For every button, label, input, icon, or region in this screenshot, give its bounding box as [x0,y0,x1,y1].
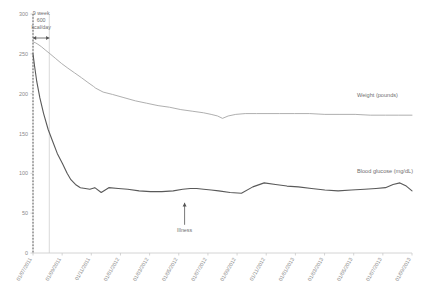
y-axis-tick-label: 200 [19,91,28,97]
x-axis-tick-label: 01/07/2013 [365,256,383,282]
x-axis-tick-label: 01/05/2013 [335,256,353,282]
line-chart: 05010015020025030001/07/201101/09/201101… [0,0,430,299]
x-axis-tick-label: 01/03/2012 [131,256,149,282]
y-axis-tick-label: 300 [19,11,28,17]
diet-annotation-line-0: 9 week [33,10,50,16]
x-axis-tick-label: 01/01/2013 [277,256,295,282]
x-axis-tick-label: 01/01/2012 [102,256,120,282]
illness-arrowhead [183,203,187,207]
y-axis-tick-label: 50 [22,210,28,216]
diet-annotation-line-1: 600 [37,17,46,23]
x-axis-tick-label: 01/07/2011 [15,256,33,281]
x-axis-tick-label: 01/09/2012 [219,256,237,282]
x-axis-tick-label: 01/11/2012 [248,256,266,281]
chart-container: 05010015020025030001/07/201101/09/201101… [0,0,430,299]
y-axis-tick-label: 100 [19,170,28,176]
x-axis-tick-label: 01/09/2011 [44,256,62,281]
diet-span-arrowhead-0 [33,36,36,40]
x-axis-tick-label: 01/11/2011 [73,256,91,281]
series-line-1 [33,54,412,193]
series-line-0 [33,42,412,118]
y-axis-tick-label: 150 [19,131,28,137]
x-axis-tick-label: 01/03/2013 [306,256,324,282]
y-axis-tick-label: 0 [25,250,28,256]
series-label-1: Blood glucose (mg/dL) [357,168,413,174]
y-axis-tick-label: 250 [19,51,28,57]
diet-span-arrowhead-1 [46,36,49,40]
x-axis-tick-label: 01/07/2012 [190,256,208,282]
diet-annotation-line-2: kcal/day [31,24,51,30]
x-axis-tick-label: 01/09/2013 [394,256,412,282]
x-axis-tick-label: 01/05/2012 [160,256,178,282]
series-label-0: Weight (pounds) [357,92,398,98]
illness-annotation-label: Illness [177,227,192,233]
